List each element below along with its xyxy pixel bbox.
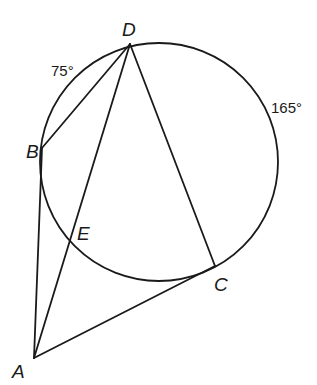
geometry-diagram: D B E C A 75° 165° [0,0,317,385]
segment-AC [34,266,215,358]
label-A: A [11,361,25,382]
segment-DB [42,44,130,148]
segment-DC [130,44,215,266]
circle [40,43,278,281]
label-B: B [26,141,39,162]
label-D: D [122,19,136,40]
arc-label-DC: 165° [271,99,302,116]
segment-DA [34,44,130,358]
arc-label-BD: 75° [51,62,74,79]
label-E: E [77,223,90,244]
segment-BA [34,148,42,358]
label-C: C [214,274,228,295]
